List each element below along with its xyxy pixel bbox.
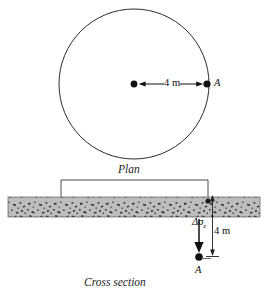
plan-radius-arrow-right bbox=[180, 81, 203, 86]
cross-section-point-a-label: A bbox=[195, 265, 201, 276]
plan-caption: Plan bbox=[118, 164, 140, 176]
cross-section-group bbox=[8, 180, 260, 261]
plan-radius-arrow-left bbox=[139, 81, 164, 86]
soil-surface-edge-point bbox=[205, 198, 210, 203]
stress-increase-subscript: z bbox=[203, 222, 206, 230]
plan-point-a-label: A bbox=[214, 78, 220, 89]
plan-center-point bbox=[131, 81, 138, 88]
cross-section-point-a-marker bbox=[195, 253, 203, 261]
plan-point-a-marker bbox=[203, 80, 210, 87]
figure-container: 4 m A Plan Δσz 4 m A Cross section bbox=[0, 0, 268, 296]
plan-radius-dimension-label: 4 m bbox=[164, 78, 180, 89]
cross-section-caption: Cross section bbox=[84, 277, 146, 289]
plan-view-group bbox=[59, 9, 211, 159]
diagram-graphics bbox=[0, 0, 268, 296]
depth-dimension-label: 4 m bbox=[214, 226, 230, 237]
load-width-bracket bbox=[61, 180, 208, 199]
stress-increase-symbol: Δσ bbox=[192, 216, 203, 227]
stress-increase-label: Δσz bbox=[192, 217, 206, 230]
soil-layer-band bbox=[8, 197, 260, 217]
